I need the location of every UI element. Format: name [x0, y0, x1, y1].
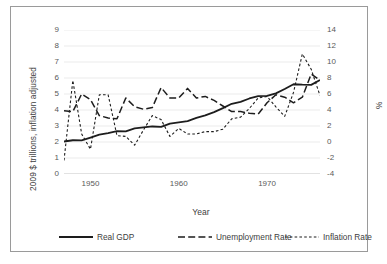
y-axis-right-tick-label: 8 [327, 73, 345, 82]
legend-item-inflation-rate[interactable]: Inflation Rate [285, 229, 372, 245]
y-axis-right-tick-label: -4 [327, 169, 345, 178]
legend-line-swatch [178, 232, 212, 242]
y-axis-left-tick-label: 2 [43, 137, 59, 146]
legend-line-swatch [285, 232, 319, 242]
y-axis-left-tick-label: 3 [43, 121, 59, 130]
legend-item-real-gdp[interactable]: Real GDP [59, 229, 134, 245]
legend-label: Unemployment Rate [216, 232, 292, 242]
y-axis-right-tick-label: -2 [327, 153, 345, 162]
y-axis-left-title-text: 2009 $ trillions, inflation adjusted [28, 67, 38, 191]
x-axis-tick-label: 1960 [159, 179, 199, 188]
legend-line-swatch [59, 232, 93, 242]
y-axis-left-tick-label: 5 [43, 89, 59, 98]
chart-legend: Real GDPUnemployment RateInflation Rate [11, 229, 387, 251]
y-axis-left-tick-label: 7 [43, 57, 59, 66]
y-axis-right-tick-label: 14 [327, 25, 345, 34]
x-axis-tick-label: 1970 [247, 179, 287, 188]
y-axis-left-tick-label: 6 [43, 73, 59, 82]
y-axis-left-tick-label: 9 [43, 25, 59, 34]
x-axis-tick-label: 1950 [70, 179, 110, 188]
x-axis-title: Year [11, 207, 387, 217]
y-axis-left-tick-label: 4 [43, 105, 59, 114]
y-axis-left-title: 2009 $ trillions, inflation adjusted [17, 21, 31, 196]
legend-label: Real GDP [97, 232, 134, 242]
y-axis-right-tick-label: 2 [327, 121, 345, 130]
y-axis-left-tick-label: 0 [43, 169, 59, 178]
y-axis-left-tick-label: 8 [43, 41, 59, 50]
data-series-layer [64, 54, 320, 160]
y-axis-right-title-text: % [374, 102, 384, 109]
series-line-inflation-rate [64, 54, 320, 160]
series-line-real-gdp [64, 80, 320, 141]
y-axis-right-title: % [363, 95, 377, 125]
plot-area [64, 30, 320, 174]
gridlines [64, 30, 320, 174]
y-axis-right-tick-label: 10 [327, 57, 345, 66]
y-axis-right-tick-label: 6 [327, 89, 345, 98]
y-axis-left-tick-label: 1 [43, 153, 59, 162]
y-axis-right-tick-label: 4 [327, 105, 345, 114]
y-axis-right-tick-label: 0 [327, 137, 345, 146]
legend-item-unemployment-rate[interactable]: Unemployment Rate [178, 229, 292, 245]
chart-container: 2009 $ trillions, inflation adjusted % 0… [10, 6, 368, 252]
series-line-unemployment-rate [64, 74, 320, 119]
y-axis-right-tick-label: 12 [327, 41, 345, 50]
legend-label: Inflation Rate [323, 232, 372, 242]
